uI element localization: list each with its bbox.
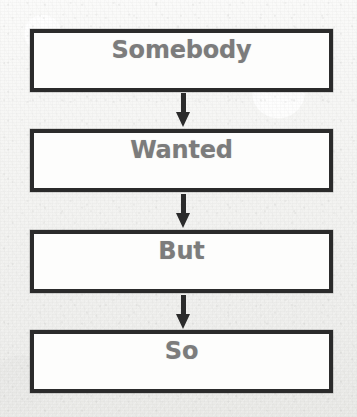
swbs-box-wanted[interactable]: Wanted	[30, 129, 333, 192]
swbs-box-but[interactable]: But	[30, 230, 333, 293]
arrow-head	[176, 112, 190, 127]
arrow-head	[176, 314, 190, 329]
swbs-box-so-label: So	[34, 337, 329, 365]
swbs-box-so[interactable]: So	[30, 330, 333, 393]
arrow-down-icon	[176, 295, 190, 329]
arrow-down-icon	[176, 194, 190, 228]
swbs-box-wanted-label: Wanted	[34, 136, 329, 164]
arrow-head	[176, 213, 190, 228]
swbs-graphic-organizer: Somebody Wanted But So	[0, 0, 357, 417]
swbs-box-somebody[interactable]: Somebody	[30, 29, 333, 92]
arrow-down-icon	[176, 93, 190, 127]
swbs-box-but-label: But	[34, 237, 329, 265]
swbs-box-somebody-label: Somebody	[34, 36, 329, 64]
